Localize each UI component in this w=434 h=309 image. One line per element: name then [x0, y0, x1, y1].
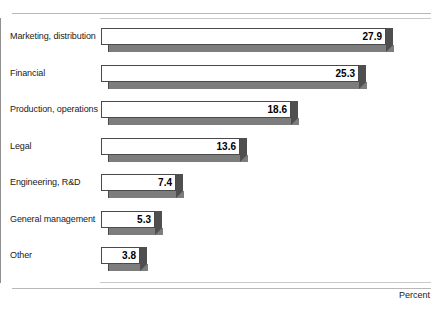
bar-value-label: 5.3 — [101, 211, 155, 228]
category-label: Engineering, R&D — [10, 177, 80, 187]
category-label: Other — [10, 250, 32, 260]
bar-shadow-face — [108, 155, 248, 162]
bar: 25.3 — [101, 65, 366, 89]
bar-value-label: 7.4 — [101, 174, 176, 191]
category-label: Marketing, distribution — [10, 31, 96, 41]
category-label: General management — [10, 214, 95, 224]
bar: 27.9 — [101, 28, 393, 52]
bottom-divider-rule — [12, 288, 431, 289]
bar-shadow-face — [108, 45, 394, 52]
category-axis-line — [0, 18, 1, 283]
bar-value-label: 18.6 — [101, 101, 291, 118]
category-label: Financial — [10, 68, 45, 78]
bar: 3.8 — [101, 247, 147, 271]
bar-shadow-face — [108, 118, 299, 125]
bar-shadow-face — [108, 82, 367, 89]
x-axis-title: Percent — [399, 290, 430, 300]
bar-value-label: 25.3 — [101, 65, 359, 82]
bar-shadow-face — [108, 228, 163, 235]
bar-value-label: 3.8 — [101, 247, 140, 264]
bar: 18.6 — [101, 101, 298, 125]
plot-bottom-edge — [100, 282, 431, 283]
bar: 7.4 — [101, 174, 183, 198]
plot-top-edge — [100, 18, 431, 19]
bar-value-label: 13.6 — [101, 138, 240, 155]
bar-value-label: 27.9 — [101, 28, 386, 45]
category-label: Production, operations — [10, 104, 98, 114]
bar: 5.3 — [101, 211, 162, 235]
category-label: Legal — [10, 141, 32, 151]
top-divider-rule — [12, 13, 431, 14]
bar-shadow-face — [108, 191, 184, 198]
bar: 13.6 — [101, 138, 247, 162]
